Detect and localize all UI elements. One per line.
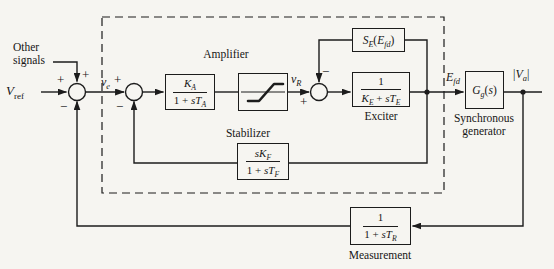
- sum2-plus-left: +: [114, 73, 121, 86]
- exciter-transfer-function: 1 KE + sTE: [361, 75, 402, 104]
- generator-block: Gg(s): [465, 71, 504, 109]
- measurement-block: 1 1 + sTR: [350, 207, 411, 245]
- sum1-plus-left: +: [57, 73, 64, 86]
- sum2-minus-bottom: −: [116, 100, 123, 113]
- measurement-transfer-function: 1 1 + sTR: [363, 211, 397, 240]
- wire-measurement-to-sum1: [77, 102, 350, 227]
- generator-caption: Synchronous generator: [445, 112, 523, 137]
- sum3-minus-top: −: [322, 65, 329, 78]
- sum1-minus-bottom: −: [60, 100, 67, 113]
- sum3-plus-left: +: [300, 95, 307, 108]
- other-signals-label: Other signals: [13, 41, 61, 66]
- exciter-saturation-block: SE(Efd): [352, 28, 405, 52]
- exciter-block: 1 KE + sTE: [352, 72, 410, 107]
- exciter-saturation-function: SE(Efd): [363, 34, 395, 46]
- amplifier-transfer-function: KA 1 + sTA: [173, 77, 207, 106]
- sum1-plus-top: +: [82, 68, 89, 81]
- stabilizer-caption: Stabilizer: [218, 127, 278, 140]
- summing-junction-2: [126, 84, 143, 101]
- summing-junction-1: [69, 84, 86, 101]
- measurement-caption: Measurement: [340, 249, 420, 262]
- generator-transfer-function: Gg(s): [472, 84, 497, 96]
- stabilizer-block: sKF 1 + sTF: [237, 143, 289, 180]
- vr-signal-label: vR: [291, 73, 301, 86]
- saturation-block: [238, 73, 288, 111]
- efd-takeoff-node: [424, 89, 429, 94]
- excitation-system-diagram: KA 1 + sTA SE(Efd) 1 KE + sTE Gg(s) sKF …: [0, 0, 554, 269]
- efd-signal-label: Efd: [446, 71, 460, 84]
- stabilizer-transfer-function: sKF 1 + sTF: [246, 147, 280, 176]
- summing-junction-3: [311, 84, 328, 101]
- va-output-label: |Va|: [513, 68, 529, 81]
- amplifier-caption: Amplifier: [176, 48, 276, 61]
- output-takeoff-node: [520, 89, 525, 94]
- ve-signal-label: ve: [101, 76, 110, 89]
- exciter-caption: Exciter: [352, 110, 410, 123]
- vref-label: Vref: [6, 84, 24, 98]
- amplifier-block: KA 1 + sTA: [165, 74, 215, 110]
